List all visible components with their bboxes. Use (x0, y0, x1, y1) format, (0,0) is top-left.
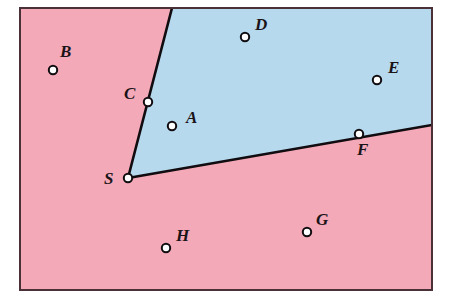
point-marker-B (49, 66, 57, 74)
point-marker-G (303, 228, 311, 236)
point-label-B: B (59, 42, 71, 61)
point-label-C: C (124, 84, 136, 103)
point-label-H: H (175, 226, 190, 245)
point-marker-S (124, 174, 132, 182)
point-marker-F (355, 130, 363, 138)
figure-container: ABCDEFGHS (0, 0, 452, 306)
point-label-E: E (387, 58, 399, 77)
point-label-F: F (356, 140, 369, 159)
point-marker-E (373, 76, 381, 84)
point-label-S: S (104, 169, 113, 188)
point-label-A: A (185, 108, 197, 127)
point-marker-H (162, 244, 170, 252)
point-label-G: G (316, 210, 329, 229)
point-marker-D (241, 33, 249, 41)
point-label-D: D (254, 15, 267, 34)
point-marker-C (144, 98, 152, 106)
point-marker-A (168, 122, 176, 130)
geometry-figure: ABCDEFGHS (0, 0, 452, 306)
